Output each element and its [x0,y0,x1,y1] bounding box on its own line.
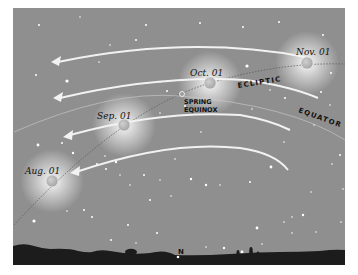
diagram-canvas: Nov. 01 Oct. 01 Sep. 01 Aug. 01 ECLIPTIC… [13,8,345,265]
planet-aug [46,175,58,187]
label-nov: Nov. 01 [295,47,330,57]
spring-equinox-marker [180,92,185,97]
planet-nov [301,57,313,69]
label-equinox: EQUINOX [184,106,217,114]
label-sep: Sep. 01 [97,111,131,121]
north-star [177,256,180,259]
label-oct: Oct. 01 [190,68,223,78]
label-north: N [178,248,184,256]
label-spring: SPRING [184,98,212,106]
label-aug: Aug. 01 [24,166,60,176]
planet-oct [204,77,216,89]
sky-diagram: Nov. 01 Oct. 01 Sep. 01 Aug. 01 ECLIPTIC… [13,8,345,265]
